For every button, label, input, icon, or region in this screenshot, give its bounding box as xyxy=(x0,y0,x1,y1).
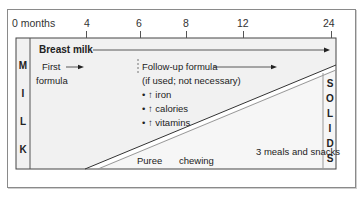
feeding-diagram-graphic xyxy=(0,0,361,201)
tick-label-24: 24 xyxy=(323,17,335,29)
bullet-iron: • ↑ iron xyxy=(142,89,171,100)
bullet-calories: • ↑ calories xyxy=(142,103,188,114)
milk-letter: M xyxy=(16,60,30,71)
tick-mark-4 xyxy=(86,31,87,38)
meals-label: 3 meals and snacks xyxy=(256,146,340,157)
tick-label-12: 12 xyxy=(237,17,249,29)
tick-mark-12 xyxy=(243,31,244,38)
puree-label: Puree xyxy=(137,155,162,166)
first-formula-label-line2: formula xyxy=(36,75,68,86)
tick-label-8: 8 xyxy=(183,17,189,29)
milk-letter: K xyxy=(16,144,30,155)
bullet-vitamins: • ↑ vitamins xyxy=(142,117,190,128)
followup-formula-label: Follow-up formula xyxy=(142,61,218,72)
first-formula-label-line1: First xyxy=(42,61,60,72)
breast-milk-label: Breast milk xyxy=(39,44,93,55)
followup-formula-note: (if used; not necessary) xyxy=(142,75,241,86)
tick-mark-8 xyxy=(186,31,187,38)
tick-label-6: 6 xyxy=(136,17,142,29)
milk-letter: L xyxy=(16,116,30,127)
solids-letter: I xyxy=(323,123,337,134)
solids-letter: L xyxy=(323,108,337,119)
tick-mark-24 xyxy=(331,31,332,38)
tick-label-4: 4 xyxy=(84,17,90,29)
milk-letter: I xyxy=(16,88,30,99)
chewing-label: chewing xyxy=(179,155,214,166)
solids-letter: S xyxy=(323,78,337,89)
solids-letter: O xyxy=(323,93,337,104)
tick-mark-6 xyxy=(140,31,141,38)
tick-label-0: 0 months xyxy=(12,17,55,29)
